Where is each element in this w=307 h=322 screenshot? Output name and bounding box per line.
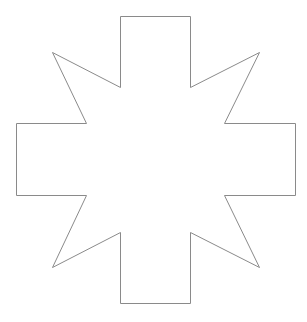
cross-star-shape <box>17 17 296 304</box>
diagram-canvas <box>0 0 307 322</box>
